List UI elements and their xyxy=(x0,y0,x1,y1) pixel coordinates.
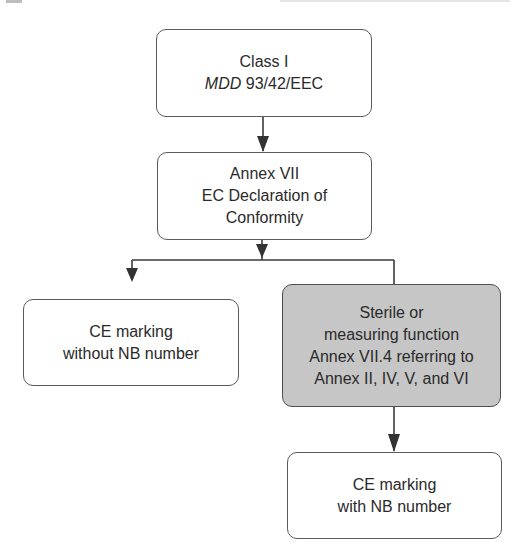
arrowhead-sterile-cewithnb xyxy=(388,434,400,452)
node-annex-vii-line-3: Conformity xyxy=(226,207,303,229)
node-sterile-measuring: Sterile or measuring function Annex VII.… xyxy=(282,284,501,407)
node-ce-with-nb-line-2: with NB number xyxy=(338,496,452,518)
node-ce-without-nb-line-2: without NB number xyxy=(63,343,199,365)
arrowhead-classi-annexvii xyxy=(257,136,269,152)
node-ce-with-nb: CE marking with NB number xyxy=(287,452,502,539)
node-ce-without-nb-line-1: CE marking xyxy=(89,321,173,343)
node-ce-without-nb: CE marking without NB number xyxy=(23,299,239,386)
node-sterile-line-2: measuring function xyxy=(324,324,459,346)
node-class-i-line-1: Class I xyxy=(240,51,289,73)
arrowhead-split-left xyxy=(126,268,138,282)
node-class-i-rest: 93/42/EEC xyxy=(241,75,323,92)
node-ce-with-nb-line-1: CE marking xyxy=(353,474,437,496)
arrowhead-annexvii-split xyxy=(256,244,268,258)
node-class-i-line-2: MDD 93/42/EEC xyxy=(205,73,323,95)
node-sterile-line-3: Annex VII.4 referring to xyxy=(309,346,474,368)
node-sterile-line-4: Annex II, IV, V, and VI xyxy=(314,368,468,390)
node-annex-vii-line-1: Annex VII xyxy=(230,163,299,185)
node-sterile-line-1: Sterile or xyxy=(359,302,423,324)
node-annex-vii: Annex VII EC Declaration of Conformity xyxy=(157,152,372,240)
node-class-i: Class I MDD 93/42/EEC xyxy=(156,29,372,117)
node-class-i-italic: MDD xyxy=(205,75,241,92)
node-annex-vii-line-2: EC Declaration of xyxy=(202,185,327,207)
